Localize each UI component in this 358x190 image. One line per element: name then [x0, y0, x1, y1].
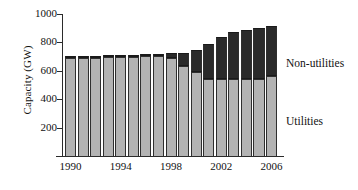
- bar-segment-utilities: [166, 58, 177, 156]
- y-axis-tick-label: 600: [23, 65, 57, 76]
- bar-segment-utilities: [228, 79, 239, 156]
- bar-2004: [241, 14, 252, 156]
- bar-segment-utilities: [140, 56, 151, 156]
- bar-1996: [140, 14, 151, 156]
- bar-segment-non-utilities: [191, 50, 202, 72]
- bar-1990: [65, 14, 76, 156]
- bar-segment-non-utilities: [153, 54, 164, 56]
- bar-segment-non-utilities: [128, 55, 139, 57]
- bar-1994: [115, 14, 126, 156]
- bar-segment-non-utilities: [241, 30, 252, 79]
- x-axis-tick-label: 1990: [51, 160, 91, 172]
- bar-2003: [228, 14, 239, 156]
- bar-segment-utilities: [241, 79, 252, 156]
- bar-1997: [153, 14, 164, 156]
- y-axis-tick-label: 200: [23, 122, 57, 133]
- x-axis-tick-label: 1994: [101, 160, 141, 172]
- bar-segment-non-utilities: [78, 56, 89, 58]
- bar-segment-utilities: [153, 56, 164, 156]
- bar-segment-non-utilities: [166, 53, 177, 58]
- bar-1999: [178, 14, 189, 156]
- bar-1995: [128, 14, 139, 156]
- bar-segment-non-utilities: [178, 53, 189, 66]
- x-axis-tick-label: 1998: [151, 160, 191, 172]
- x-axis-tick-label: 2006: [252, 160, 292, 172]
- y-axis-tick-label: 1000: [23, 8, 57, 19]
- bar-1998: [166, 14, 177, 156]
- bar-1991: [78, 14, 89, 156]
- bar-segment-non-utilities: [253, 28, 264, 79]
- bar-segment-non-utilities: [115, 55, 126, 57]
- y-axis-tick: [57, 71, 62, 72]
- series-label-non-utilities: Non-utilities: [286, 57, 344, 69]
- bar-segment-utilities: [216, 79, 227, 156]
- y-axis-tick: [57, 99, 62, 100]
- bar-segment-non-utilities: [228, 32, 239, 79]
- x-axis-line: [56, 156, 284, 157]
- bar-segment-utilities: [266, 76, 277, 156]
- bar-2001: [203, 14, 214, 156]
- plot-area: [62, 14, 280, 156]
- bar-segment-non-utilities: [140, 54, 151, 56]
- bar-series-group: [63, 14, 280, 156]
- bar-1993: [103, 14, 114, 156]
- bar-segment-utilities: [78, 58, 89, 156]
- bar-segment-utilities: [203, 79, 214, 156]
- bar-segment-non-utilities: [203, 44, 214, 80]
- series-label-utilities: Utilities: [286, 115, 323, 127]
- bar-2005: [253, 14, 264, 156]
- chart-figure: Capacity (GW) 2004006008001000 199019941…: [0, 0, 358, 190]
- bar-1992: [90, 14, 101, 156]
- bar-segment-non-utilities: [266, 26, 277, 76]
- bar-segment-utilities: [128, 57, 139, 156]
- bar-2006: [266, 14, 277, 156]
- y-axis-tick: [57, 128, 62, 129]
- y-axis-tick: [57, 14, 62, 15]
- bar-segment-utilities: [115, 57, 126, 156]
- bar-segment-utilities: [90, 58, 101, 156]
- bar-segment-non-utilities: [65, 56, 76, 58]
- bar-segment-utilities: [191, 72, 202, 156]
- bar-segment-utilities: [103, 57, 114, 156]
- y-axis-tick-label: 400: [23, 93, 57, 104]
- y-axis-tick: [57, 42, 62, 43]
- bar-segment-non-utilities: [216, 37, 227, 78]
- bar-segment-non-utilities: [103, 55, 114, 57]
- bar-segment-utilities: [65, 58, 76, 156]
- y-axis-tick-label: 800: [23, 36, 57, 47]
- x-axis-tick-label: 2002: [201, 160, 241, 172]
- bar-segment-non-utilities: [90, 56, 101, 58]
- bar-2000: [191, 14, 202, 156]
- bar-segment-utilities: [253, 79, 264, 156]
- bar-2002: [216, 14, 227, 156]
- bar-segment-utilities: [178, 66, 189, 156]
